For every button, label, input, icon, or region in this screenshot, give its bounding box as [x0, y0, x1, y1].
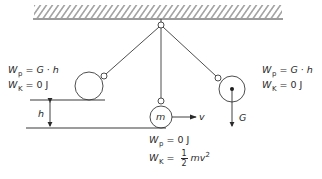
weight-label: G: [239, 113, 246, 123]
bottom-kinetic-energy: WK = 12mv2: [149, 149, 210, 168]
one-half-fraction: 12: [181, 149, 188, 168]
pendulum-left: [75, 27, 159, 100]
bottom-potential-energy: Wp = 0 J: [149, 135, 189, 145]
bob-left: [75, 72, 103, 100]
velocity-label: v: [199, 112, 205, 122]
height-label: h: [38, 109, 44, 119]
left-kinetic-energy: WK = 0 J: [8, 80, 48, 90]
left-potential-energy: Wp = G · h: [8, 65, 59, 75]
right-kinetic-energy: WK = 0 J: [262, 80, 302, 90]
mass-label: m: [156, 112, 165, 122]
right-potential-energy: Wp = G · h: [262, 65, 313, 75]
ceiling: [33, 5, 283, 19]
